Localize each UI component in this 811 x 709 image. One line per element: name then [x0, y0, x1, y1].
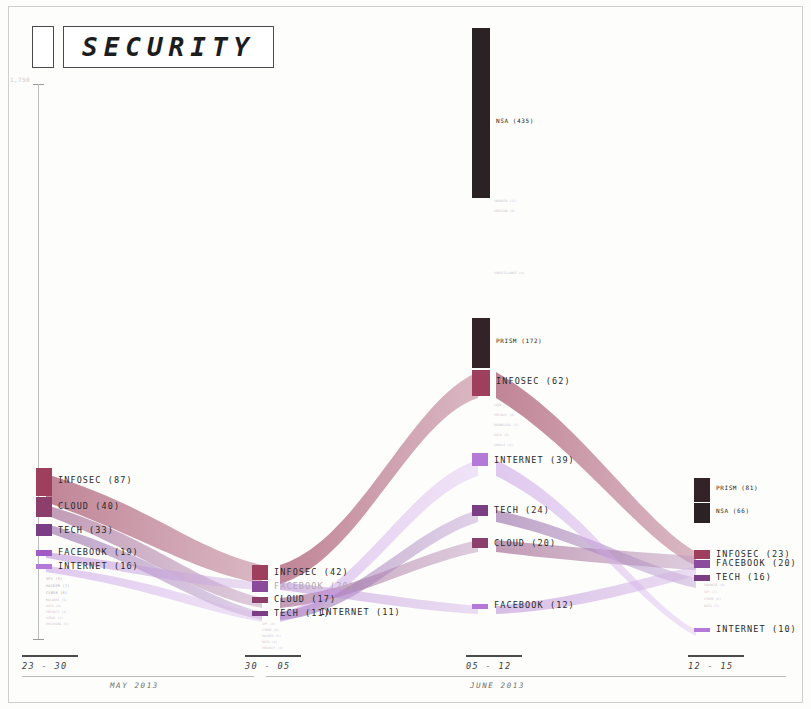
label-col4-nsa: NSA (66) — [716, 508, 750, 514]
label-col2-trail-2: HACKER (5) — [262, 635, 281, 638]
label-col1-trail-5: PRIVACY (4) — [46, 611, 67, 614]
label-col1-infosec: INFOSEC (87) — [58, 476, 133, 485]
ribbon-infosec-3 — [496, 372, 696, 566]
label-col4-trail-2: CYBER (6) — [704, 598, 721, 601]
label-col2-trail-0: SPY (8) — [262, 623, 275, 626]
label-col2-infosec: INFOSEC (42) — [274, 568, 349, 577]
swatch-tech-4 — [694, 575, 710, 581]
label-col4-trail-3: DATA (5) — [704, 605, 719, 608]
label-col1-cloud: CLOUD (40) — [58, 502, 120, 511]
month-rule-june — [266, 676, 786, 677]
label-col4-trail-1: SPY (7) — [704, 591, 717, 594]
label-col1-trail-6: VIRUS (3) — [46, 617, 63, 620]
swatch-prism — [472, 318, 490, 368]
swatch-internet-3 — [472, 453, 488, 466]
tick-label-1: 23 - 30 — [22, 661, 68, 671]
swatch-nsa-4 — [694, 503, 710, 523]
label-col4-trail-0: SNOWDEN (9) — [704, 584, 725, 587]
swatch-internet-4 — [694, 628, 710, 632]
label-col4-internet: INTERNET (10) — [716, 625, 797, 634]
swatch-cloud — [36, 497, 52, 517]
month-label-may: MAY 2013 — [110, 681, 159, 690]
label-col3-trail-2: SURVEILLANCE (8) — [494, 272, 525, 275]
label-col3-internet: INTERNET (39) — [494, 456, 575, 465]
tick-label-4: 12 - 15 — [688, 661, 734, 671]
swatch-cloud-2 — [252, 597, 268, 603]
swatch-infosec-3 — [472, 370, 490, 396]
label-col3-trail-6: DATA (5) — [494, 434, 509, 437]
label-col1-internet: INTERNET (16) — [58, 562, 139, 571]
month-label-june: JUNE 2013 — [470, 681, 525, 690]
tick-rule-4 — [688, 655, 744, 657]
label-col3-trail-5: BOUNDLESS (5) — [494, 424, 519, 427]
label-col1-trail-3: MALWARE (5) — [46, 599, 67, 602]
swatch-facebook-3 — [472, 604, 488, 609]
label-col2-cloud: CLOUD (17) — [274, 595, 336, 604]
swatch-facebook-2 — [252, 581, 268, 592]
label-col1-trail-2: CYBER (6) — [46, 592, 67, 596]
swatch-internet — [36, 564, 52, 569]
tick-label-3: 05 - 12 — [466, 661, 512, 671]
swatch-prism-4 — [694, 478, 710, 502]
chart-page: SECURITY 1,750 — [0, 0, 811, 709]
label-col1-trail-4: DATA (4) — [46, 605, 61, 608]
swatch-facebook-4 — [694, 560, 710, 568]
label-col3-trail-4: PRIVACY (6) — [494, 414, 515, 417]
label-col1-trail-1: HACKER (7) — [46, 585, 70, 589]
label-col1-tech: TECH (33) — [58, 526, 114, 535]
label-col3-nsa: NSA (435) — [496, 118, 534, 124]
label-col2-trail-3: DATA (4) — [262, 641, 277, 644]
tick-label-2: 30 - 05 — [245, 661, 291, 671]
swatch-tech-2 — [252, 611, 268, 616]
label-col2-facebook: FACEBOOK (20) — [274, 582, 355, 591]
tick-rule-3 — [466, 655, 522, 657]
label-col3-facebook: FACEBOOK (12) — [494, 601, 575, 610]
flow-ribbons — [0, 0, 811, 709]
label-col2-trail-4: PRIVACY (3) — [262, 647, 283, 650]
swatch-nsa — [472, 28, 490, 198]
label-col3-trail-3: LEAK (7) — [494, 404, 509, 407]
month-rule-may — [22, 676, 254, 677]
swatch-facebook — [36, 550, 52, 556]
label-col3-prism: PRISM (172) — [496, 338, 542, 344]
swatch-tech-3 — [472, 505, 488, 516]
tick-rule-2 — [245, 655, 301, 657]
label-col1-trail-7: PHISHING (3) — [46, 623, 69, 626]
label-col2-internet: INTERNET (11) — [320, 608, 401, 617]
label-col3-trail-1: VERIZON (9) — [494, 210, 515, 213]
label-col4-facebook: FACEBOOK (20) — [716, 559, 797, 568]
label-col1-facebook: FACEBOOK (19) — [58, 548, 139, 557]
swatch-tech — [36, 524, 52, 536]
label-col4-prism: PRISM (81) — [716, 485, 758, 491]
label-col1-trail-0: SPY (9) — [46, 578, 63, 582]
label-col3-cloud: CLOUD (20) — [494, 539, 556, 548]
label-col3-trail-0: SNOWDEN (11) — [494, 200, 517, 203]
label-col3-infosec: INFOSEC (62) — [496, 377, 571, 386]
swatch-cloud-3 — [472, 538, 488, 548]
swatch-infosec-4 — [694, 550, 710, 559]
label-col3-trail-7: GOOGLE (4) — [494, 444, 513, 447]
swatch-infosec — [36, 468, 52, 496]
label-col4-tech: TECH (16) — [716, 573, 772, 582]
label-col2-trail-1: CYBER (6) — [262, 629, 279, 632]
swatch-infosec-2 — [252, 565, 268, 580]
label-col3-tech: TECH (24) — [494, 506, 550, 515]
tick-rule-1 — [22, 655, 78, 657]
